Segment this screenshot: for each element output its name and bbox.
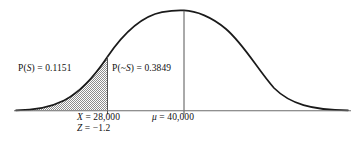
z-equals: = [82, 123, 92, 133]
normal-curve [16, 10, 348, 110]
mu-number: 40,000 [167, 112, 194, 122]
z-value-label: Z = −1.2 [77, 123, 120, 134]
x-equals: = [83, 112, 93, 122]
mean-axis-annotation: μ = 40,000 [152, 112, 194, 123]
probability-label-shaded: P(S) = 0.1151 [18, 63, 72, 73]
z-number: −1.2 [93, 123, 111, 133]
probability-label-unshaded: P(~S) = 0.3849 [112, 63, 171, 73]
pnots-symbol-open: P(~ [112, 63, 126, 73]
mu-equals: = [157, 112, 167, 122]
mu-value-label: μ = 40,000 [152, 112, 194, 123]
ps-value: 0.1151 [45, 63, 71, 73]
pnots-symbol-close: ) = [131, 63, 145, 73]
x-value-label: X = 28,000 [77, 112, 120, 123]
x-number: 28,000 [93, 112, 120, 122]
x-axis-annotation: X = 28,000 Z = −1.2 [77, 112, 120, 134]
ps-symbol-close: ) = [32, 63, 46, 73]
ps-symbol-open: P( [18, 63, 27, 73]
pnots-value: 0.3849 [144, 63, 171, 73]
